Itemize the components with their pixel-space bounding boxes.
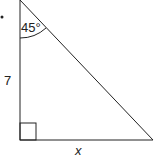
right-angle-marker <box>20 123 36 140</box>
horizontal-side-label: x <box>74 143 82 158</box>
triangle-diagram: 45° 7 x <box>0 0 157 158</box>
angle-label: 45° <box>21 20 41 35</box>
bullet-dot <box>1 16 4 19</box>
vertical-side-label: 7 <box>4 73 11 88</box>
